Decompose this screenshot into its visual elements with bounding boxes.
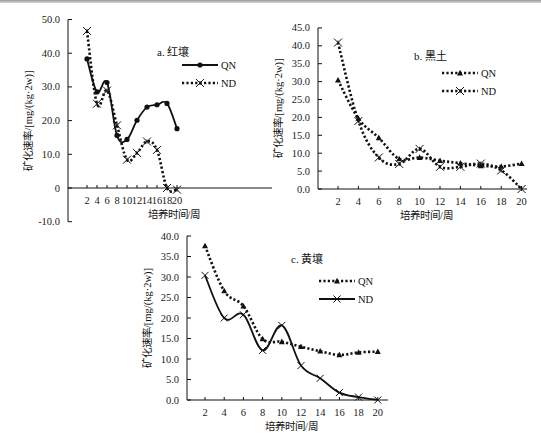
x-tick-label: 20 [172,195,183,206]
y-tick-label: 15.0 [292,130,310,141]
legend-item-qn: QN [182,60,237,71]
x-tick-label: 4 [222,407,228,418]
x-tick-label: 18 [496,196,507,207]
chart-b: 45.040.035.030.025.020.015.010.05.00.024… [272,22,527,221]
y-tick-label: 45.0 [292,22,310,33]
x-tick-label: 10 [277,407,288,418]
x-tick-label: 20 [373,407,384,418]
x-tick-label: 10 [414,196,425,207]
x-tick-label: 8 [397,196,402,207]
legend-label: QN [481,68,497,79]
y-tick-label: 10.0 [292,148,310,159]
y-tick-label: 0.0 [166,395,179,406]
x-tick-label: 4 [94,195,100,206]
y-tick-label: 30.0 [42,81,60,92]
y-axis-title: 矿化速率/[mg/(kg·2w)] [22,71,35,171]
legend-label: QN [221,60,237,71]
y-tick-label: 35.0 [161,251,179,262]
y-tick-label: 25.0 [292,94,310,105]
x-tick-label: 6 [376,196,381,207]
legend-item-nd: ND [182,78,237,89]
y-tick-label: 20.0 [292,112,310,123]
x-tick-label: 12 [435,196,446,207]
y-tick-label: 25.0 [161,292,179,303]
y-tick-label: 20.0 [42,115,60,126]
x-tick-label: 18 [353,407,364,418]
legend-label: ND [221,78,237,89]
x-tick-label: 6 [241,407,246,418]
x-tick-label: 14 [455,196,466,207]
x-tick-label: 10 [122,195,133,206]
x-tick-label: 18 [162,195,173,206]
y-tick-label: 30.0 [161,272,179,283]
x-axis-title: 培养时间/周 [400,209,453,221]
x-tick-label: 2 [335,196,340,207]
legend-label: ND [481,86,497,97]
y-axis-title: 矿化速率/[mg/(kg·2w)] [272,58,285,158]
legend-item-qn: QN [442,68,497,79]
series-line [205,275,378,400]
x-tick-label: 16 [334,407,345,418]
y-tick-label: 10.0 [42,149,60,160]
series-nd [202,272,382,404]
series-qn [84,56,179,142]
chart-a: 50.040.030.020.010.00-10.024681012141618… [22,14,272,227]
x-tick-label: 6 [104,195,109,206]
x-tick-label: 14 [315,407,326,418]
y-tick-label: 0 [55,183,60,194]
legend-label: QN [358,276,374,287]
y-tick-label: 0.0 [297,184,310,195]
y-axis-title: 矿化速率/[mg/(kg·2w)] [141,268,154,368]
x-tick-label: 20 [516,196,527,207]
x-tick-label: 2 [202,407,207,418]
y-tick-label: 5.0 [297,166,310,177]
y-tick-label: 10.0 [161,354,179,365]
y-tick-label: 40.0 [292,40,310,51]
series-line [338,43,522,189]
x-tick-label: 12 [296,407,307,418]
legend-item-nd: ND [319,294,374,305]
x-tick-label: 8 [260,407,265,418]
chart-c: 40.035.030.025.020.015.010.05.00.0246810… [141,231,388,433]
x-tick-label: 12 [132,195,143,206]
panel-title: b. 黑土 [414,50,447,62]
y-tick-label: 20.0 [161,313,179,324]
figure-canvas: 50.040.030.020.010.00-10.024681012141618… [0,0,541,448]
y-tick-label: 5.0 [166,374,179,385]
y-tick-label: 40.0 [42,48,60,59]
x-tick-label: 16 [152,195,163,206]
legend-label: ND [358,294,374,305]
panel-title: a. 红壤 [157,45,189,58]
x-tick-label: 16 [476,196,487,207]
legend-item-qn: QN [319,276,374,287]
x-axis-title: 培养时间/周 [148,208,201,220]
x-tick-label: 2 [84,195,89,206]
y-tick-label: -10.0 [38,216,60,227]
x-axis-title: 培养时间/周 [265,420,318,432]
y-tick-label: 40.0 [161,231,179,242]
panel-title: c. 黄壤 [291,252,323,265]
y-tick-label: 50.0 [42,14,60,25]
x-tick-label: 4 [356,196,362,207]
y-tick-label: 35.0 [292,58,310,69]
x-tick-label: 8 [114,195,119,206]
legend-item-nd: ND [442,86,497,97]
y-tick-label: 15.0 [161,333,179,344]
y-tick-label: 30.0 [292,76,310,87]
